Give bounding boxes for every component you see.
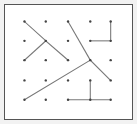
- grid-dot[interactable]: [67, 20, 69, 22]
- grid-dot[interactable]: [45, 40, 47, 42]
- grid-dot[interactable]: [23, 98, 25, 100]
- puzzle-canvas-border: [4, 4, 133, 120]
- grid-dot[interactable]: [109, 98, 111, 100]
- grid-dot[interactable]: [89, 20, 91, 22]
- line-segment[interactable]: [24, 41, 45, 60]
- grid-dot[interactable]: [89, 59, 91, 61]
- grid-dot[interactable]: [109, 40, 111, 42]
- grid-dot[interactable]: [45, 98, 47, 100]
- grid-dot[interactable]: [23, 59, 25, 61]
- grid-dot[interactable]: [23, 40, 25, 42]
- grid-dot[interactable]: [23, 79, 25, 81]
- line-segment[interactable]: [46, 41, 68, 60]
- grid-dot[interactable]: [109, 79, 111, 81]
- line-segment[interactable]: [68, 22, 90, 61]
- grid-dot[interactable]: [45, 20, 47, 22]
- puzzle-frame: [0, 0, 137, 124]
- grid-dot[interactable]: [67, 59, 69, 61]
- line-segment[interactable]: [24, 22, 45, 41]
- grid-dot[interactable]: [67, 98, 69, 100]
- grid-dot[interactable]: [89, 98, 91, 100]
- grid-dot[interactable]: [45, 79, 47, 81]
- grid-dot[interactable]: [67, 40, 69, 42]
- puzzle-canvas: [5, 5, 132, 119]
- grid-dot[interactable]: [109, 59, 111, 61]
- grid-dot[interactable]: [67, 79, 69, 81]
- grid-dot[interactable]: [45, 59, 47, 61]
- grid-dot[interactable]: [109, 20, 111, 22]
- grid-dot[interactable]: [89, 79, 91, 81]
- line-segment[interactable]: [24, 60, 90, 100]
- line-segment[interactable]: [90, 60, 110, 80]
- grid-dot[interactable]: [89, 40, 91, 42]
- grid-dot[interactable]: [23, 20, 25, 22]
